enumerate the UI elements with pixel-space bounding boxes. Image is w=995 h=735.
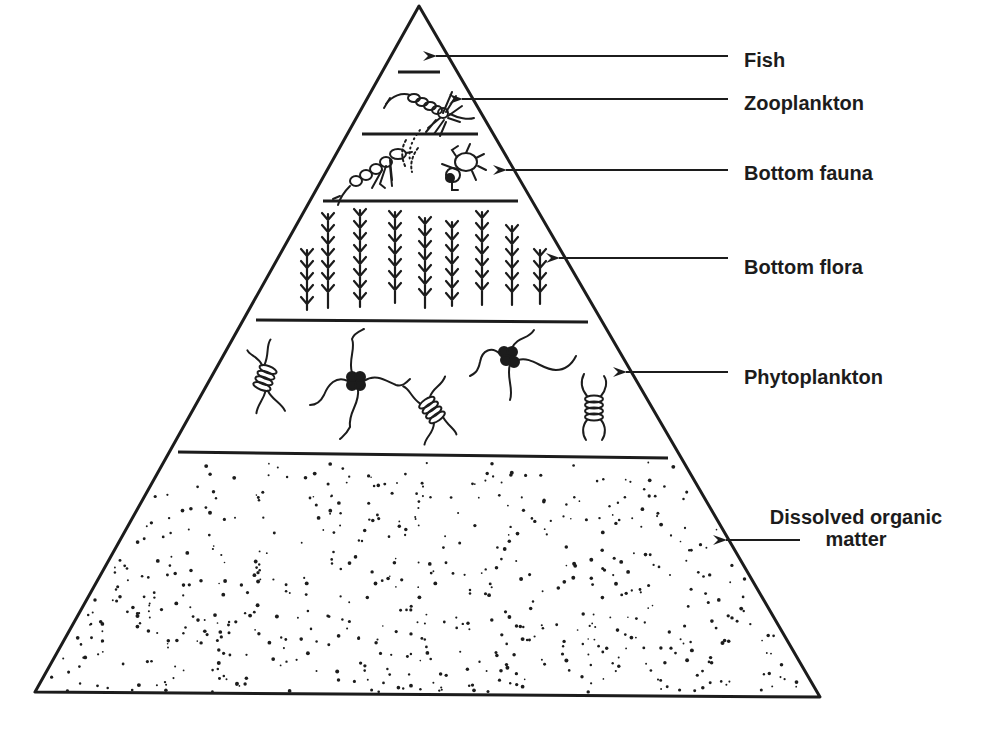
label-phytoplankton: Phytoplankton: [744, 366, 883, 388]
zooplankton-illustration: [384, 92, 474, 168]
phytoplankton-illustration: [228, 329, 606, 453]
label-fish: Fish: [744, 49, 785, 71]
divider-flora-phyto: [256, 320, 588, 322]
dissolved-organic-matter-illustration: [50, 462, 798, 694]
bottom-fauna-illustration: [333, 144, 486, 205]
divider-phyto-dom: [178, 452, 668, 458]
label-dissolved-organic-matter-line-1: Dissolved organic: [738, 506, 974, 528]
label-dissolved-organic-matter: Dissolved organic matter: [738, 506, 974, 550]
label-bottom-flora: Bottom flora: [744, 256, 863, 278]
bottom-flora-illustration: [301, 209, 546, 310]
label-bottom-fauna: Bottom fauna: [744, 162, 873, 184]
label-zooplankton: Zooplankton: [744, 92, 864, 114]
label-dissolved-organic-matter-line-2: matter: [738, 528, 974, 550]
